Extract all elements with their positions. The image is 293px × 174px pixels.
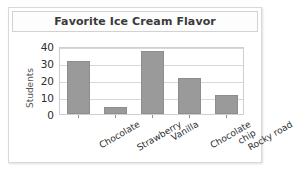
bars-layer: [60, 48, 243, 114]
bar: [67, 61, 90, 114]
y-tick-label: 10: [41, 93, 54, 104]
x-category-label: Chocolate: [98, 120, 142, 151]
plot-wrapper: Students 403020100 ChocolateStrawberryVa…: [12, 35, 258, 161]
y-tick-label: 30: [41, 59, 54, 70]
x-axis-category-labels: ChocolateStrawberryVanillaChocolatechipR…: [59, 116, 249, 161]
bar: [178, 78, 201, 114]
chart-title-box: Favorite Ice Cream Flavor: [12, 11, 258, 32]
page-title: Favorite Ice Cream Flavor: [54, 15, 216, 28]
y-axis-tick-labels: 403020100: [32, 47, 56, 115]
bar: [104, 107, 127, 114]
y-tick-label: 20: [41, 76, 54, 87]
x-category-label-line1: Chocolate: [97, 119, 141, 150]
y-tick-label: 0: [47, 110, 54, 121]
bar: [141, 51, 164, 114]
bar: [215, 95, 238, 114]
y-tick-label: 40: [41, 42, 54, 53]
chart-card: Favorite Ice Cream Flavor Students 40302…: [8, 7, 262, 163]
plot-area: [59, 47, 244, 115]
x-category-label: Chocolatechip: [209, 120, 257, 159]
